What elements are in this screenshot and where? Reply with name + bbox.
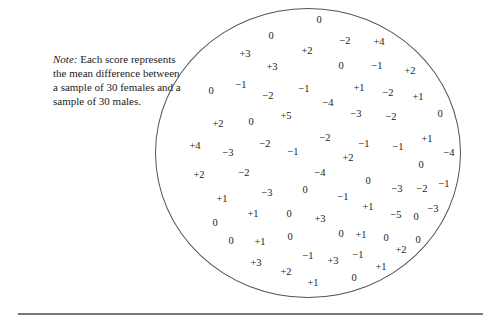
note-label: Note: bbox=[53, 53, 77, 65]
score-value: −5 bbox=[390, 210, 401, 220]
score-value: 0 bbox=[351, 273, 356, 283]
score-value: −3 bbox=[222, 148, 233, 158]
score-value: −1 bbox=[392, 142, 403, 152]
score-value: −2 bbox=[382, 88, 393, 98]
score-value: −1 bbox=[287, 147, 298, 157]
score-value: −1 bbox=[358, 139, 369, 149]
score-value: 0 bbox=[413, 212, 418, 222]
score-value: −3 bbox=[427, 204, 438, 214]
score-value: +3 bbox=[314, 214, 325, 224]
score-value: +1 bbox=[307, 278, 318, 288]
score-value: 0 bbox=[383, 233, 388, 243]
score-value: 0 bbox=[248, 117, 253, 127]
score-value: −4 bbox=[443, 148, 454, 158]
score-value: +2 bbox=[280, 267, 291, 277]
score-value: +3 bbox=[239, 49, 250, 59]
score-value: +2 bbox=[342, 153, 353, 163]
score-value: −4 bbox=[314, 168, 325, 178]
note-caption: Note: Each score represents the mean dif… bbox=[53, 52, 183, 108]
score-value: −2 bbox=[259, 139, 270, 149]
score-value: −3 bbox=[261, 188, 272, 198]
score-value: −1 bbox=[298, 84, 309, 94]
score-value: +1 bbox=[353, 83, 364, 93]
score-value: 0 bbox=[418, 160, 423, 170]
score-value: +1 bbox=[355, 230, 366, 240]
score-value: 0 bbox=[365, 176, 370, 186]
score-value: −1 bbox=[371, 61, 382, 71]
score-value: −3 bbox=[350, 109, 361, 119]
score-value: −1 bbox=[302, 251, 313, 261]
score-value: +2 bbox=[395, 245, 406, 255]
score-value: 0 bbox=[228, 236, 233, 246]
score-value: +2 bbox=[212, 119, 223, 129]
score-value: 0 bbox=[287, 232, 292, 242]
score-value: 0 bbox=[286, 209, 291, 219]
score-value: +2 bbox=[301, 46, 312, 56]
score-value: +4 bbox=[373, 37, 384, 47]
score-value: −2 bbox=[238, 168, 249, 178]
score-value: −1 bbox=[438, 179, 449, 189]
score-value: −1 bbox=[235, 80, 246, 90]
score-value: −2 bbox=[416, 184, 427, 194]
score-value: −1 bbox=[352, 250, 363, 260]
score-value: +1 bbox=[412, 92, 423, 102]
score-value: 0 bbox=[415, 235, 420, 245]
score-value: +1 bbox=[362, 202, 373, 212]
score-value: −2 bbox=[339, 36, 350, 46]
score-value: +3 bbox=[327, 256, 338, 266]
score-value: +4 bbox=[189, 141, 200, 151]
score-value: 0 bbox=[437, 109, 442, 119]
score-value: +1 bbox=[375, 262, 386, 272]
score-value: 0 bbox=[302, 185, 307, 195]
bottom-rule bbox=[18, 313, 483, 315]
score-value: 0 bbox=[208, 86, 213, 96]
score-value: +1 bbox=[254, 237, 265, 247]
score-value: +1 bbox=[216, 194, 227, 204]
score-value: +5 bbox=[280, 111, 291, 121]
score-value: −2 bbox=[385, 112, 396, 122]
score-value: +3 bbox=[250, 258, 261, 268]
score-value: +2 bbox=[404, 66, 415, 76]
score-value: +2 bbox=[193, 170, 204, 180]
score-value: −4 bbox=[322, 98, 333, 108]
score-value: 0 bbox=[316, 15, 321, 25]
score-value: 0 bbox=[268, 31, 273, 41]
score-value: −2 bbox=[319, 133, 330, 143]
score-value: +1 bbox=[421, 134, 432, 144]
score-value: 0 bbox=[338, 61, 343, 71]
score-value: +1 bbox=[247, 209, 258, 219]
score-value: −2 bbox=[262, 91, 273, 101]
score-value: 0 bbox=[338, 229, 343, 239]
score-value: −3 bbox=[391, 184, 402, 194]
score-value: 0 bbox=[212, 218, 217, 228]
score-value: −1 bbox=[337, 192, 348, 202]
score-value: +3 bbox=[266, 62, 277, 72]
